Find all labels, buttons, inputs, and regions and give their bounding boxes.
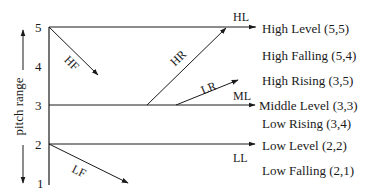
tick-3: 3	[35, 99, 42, 112]
label-low-rising: Low Rising (3,4)	[262, 117, 351, 130]
tag-ml: ML	[233, 90, 251, 102]
axis-label: pitch range	[12, 77, 25, 135]
label-high-falling: High Falling (5,4)	[262, 49, 356, 62]
hr-arrow	[147, 28, 226, 105]
tick-4: 4	[35, 60, 42, 73]
label-high-rising: High Rising (3,5)	[262, 74, 353, 87]
label-low-falling: Low Falling (2,1)	[262, 164, 354, 177]
tick-1: 1	[37, 177, 44, 190]
tag-hl: HL	[233, 11, 249, 23]
label-high-level: High Level (5,5)	[262, 22, 349, 35]
tick-5: 5	[35, 21, 42, 34]
tag-ll: LL	[233, 152, 248, 164]
label-middle-level: Middle Level (3,3)	[259, 99, 358, 112]
lf-arrow	[49, 144, 128, 183]
label-low-level: Low Level (2,2)	[262, 139, 347, 152]
tick-2: 2	[35, 138, 42, 151]
